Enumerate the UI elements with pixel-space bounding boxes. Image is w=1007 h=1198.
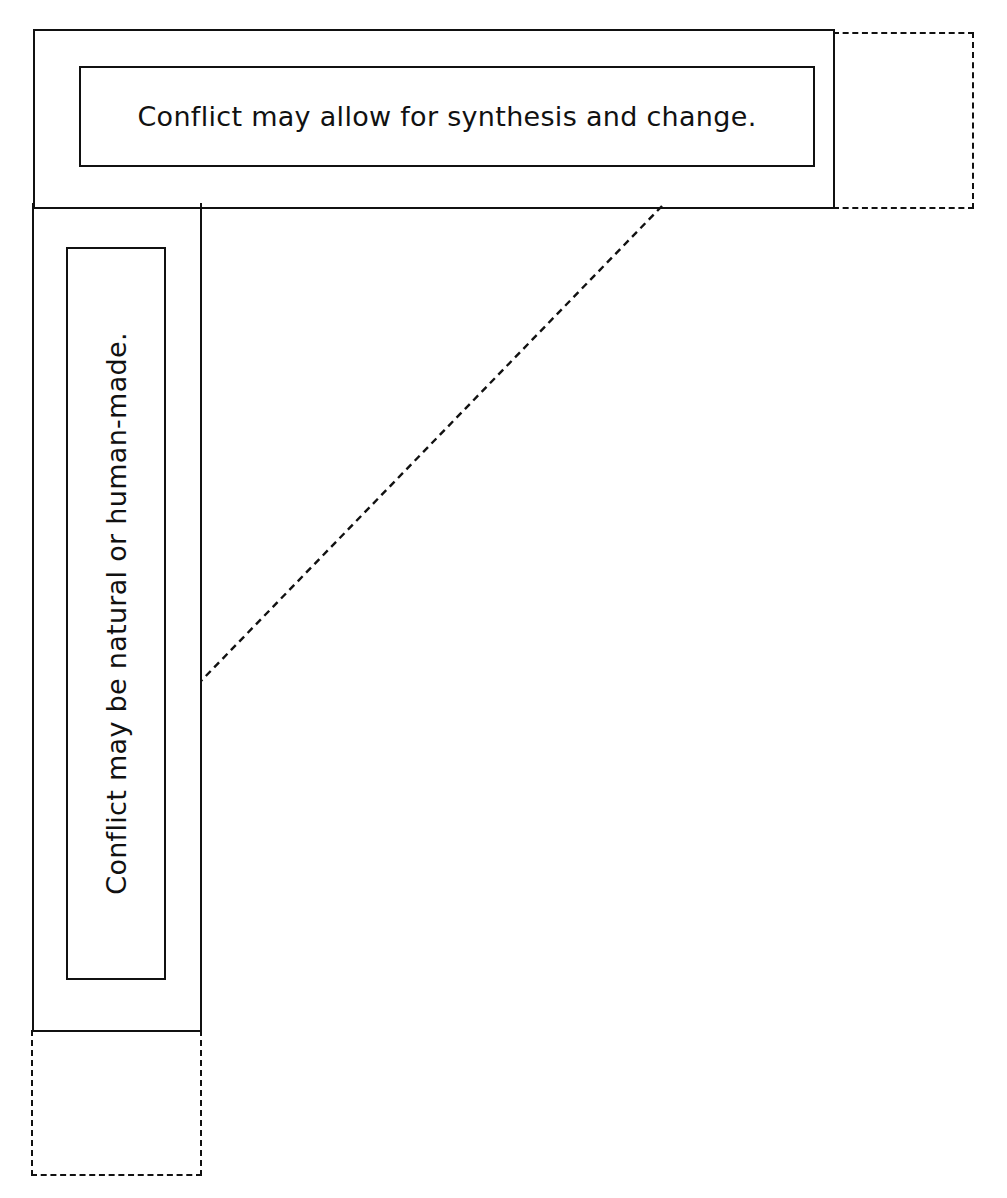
- top-panel-label: Conflict may allow for synthesis and cha…: [137, 101, 756, 132]
- left-panel-label-box: Conflict may be natural or human-made.: [66, 247, 166, 980]
- top-right-placeholder: [833, 32, 974, 209]
- top-panel-label-box: Conflict may allow for synthesis and cha…: [79, 66, 815, 167]
- left-panel-label: Conflict may be natural or human-made.: [101, 332, 132, 895]
- bottom-left-placeholder: [31, 1030, 202, 1176]
